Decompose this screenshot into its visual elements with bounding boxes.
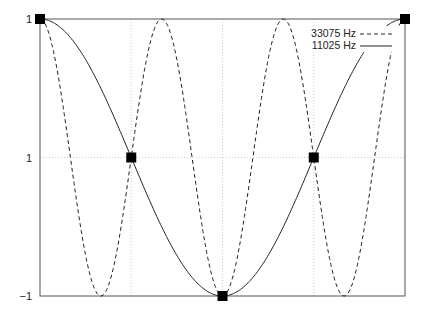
square-marker — [126, 153, 136, 163]
square-marker — [309, 153, 319, 163]
square-marker — [400, 14, 410, 24]
legend-label-11025hz: 11025 Hz — [312, 39, 356, 51]
legend: 33075 Hz 11025 Hz — [311, 26, 400, 52]
chart: 1 1 −1 33075 Hz 11025 Hz — [0, 0, 425, 315]
y-axis: 1 1 −1 — [19, 13, 32, 302]
ytick-label-top: 1 — [26, 13, 32, 25]
square-marker — [35, 14, 45, 24]
grid-lines — [40, 19, 405, 296]
legend-label-33075hz: 33075 Hz — [311, 27, 356, 39]
ytick-label-middle: 1 — [26, 152, 32, 164]
square-marker — [218, 291, 228, 301]
ytick-label-bottom: −1 — [19, 290, 32, 302]
